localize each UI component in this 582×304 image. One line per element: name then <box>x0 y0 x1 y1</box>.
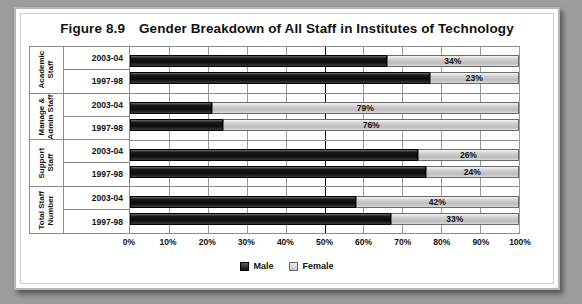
x-axis-tick-label: 50% <box>316 237 333 247</box>
bar-segment-female[interactable]: 34% <box>387 55 519 67</box>
x-axis-tick-label: 0% <box>123 237 135 247</box>
bar-value-label: 42% <box>357 197 518 206</box>
x-axis-tick-label: 10% <box>160 237 177 247</box>
x-axis-tick-label: 30% <box>238 237 255 247</box>
legend-item-male: Male <box>240 261 273 271</box>
bar-group: 26%24% <box>130 141 519 188</box>
bar-group: 34%23% <box>130 47 519 94</box>
figure-number: Figure 8.9 <box>60 21 125 36</box>
bar-segment-female[interactable]: 24% <box>426 166 519 178</box>
legend-item-female: Female <box>289 261 333 271</box>
category-row-label: 2003-04 <box>64 187 129 211</box>
category-group: Manage & Admin Staff2003-041997-98 <box>30 94 129 141</box>
bar-row[interactable]: 23% <box>130 72 519 84</box>
bar-segment-male[interactable] <box>130 166 426 178</box>
legend-label-female: Female <box>302 261 333 271</box>
bar-segment-female[interactable]: 26% <box>418 149 519 161</box>
category-row-list: 2003-041997-98 <box>64 94 129 140</box>
x-axis: 0%10%20%30%40%50%60%70%80%90%100% <box>129 234 520 252</box>
bar-value-label: 34% <box>388 57 518 66</box>
x-axis-tick-label: 70% <box>394 237 411 247</box>
bar-segment-female[interactable]: 23% <box>430 72 519 84</box>
category-group-label-text: Manage & Admin Staff <box>38 94 56 140</box>
gridline <box>519 47 520 233</box>
category-group-label: Support Staff <box>30 140 64 186</box>
bar-segment-female[interactable]: 33% <box>391 213 519 225</box>
bar-segment-male[interactable] <box>130 196 356 208</box>
bar-row[interactable]: 42% <box>130 196 519 208</box>
category-row-label: 1997-98 <box>64 117 129 139</box>
bar-row[interactable]: 79% <box>130 102 519 114</box>
bar-row[interactable]: 26% <box>130 149 519 161</box>
bar-series: 34%23%79%76%26%24%42%33% <box>130 47 519 233</box>
category-group-label-text: Support Staff <box>38 140 56 186</box>
page-title: Figure 8.9Gender Breakdown of All Staff … <box>16 21 558 36</box>
x-axis-tick-label: 90% <box>472 237 489 247</box>
category-group: Support Staff2003-041997-98 <box>30 140 129 187</box>
bar-segment-female[interactable]: 42% <box>356 196 519 208</box>
female-swatch-icon <box>289 262 298 271</box>
category-group: Total Staff Number2003-041997-98 <box>30 187 129 234</box>
chart-area: Academic Staff2003-041997-98Manage & Adm… <box>29 46 545 246</box>
bar-segment-female[interactable]: 79% <box>212 102 519 114</box>
category-row-list: 2003-041997-98 <box>64 140 129 186</box>
legend-label-male: Male <box>253 261 273 271</box>
figure-frame: Figure 8.9Gender Breakdown of All Staff … <box>14 7 560 290</box>
category-row-label: 2003-04 <box>64 47 129 70</box>
bar-segment-male[interactable] <box>130 119 223 131</box>
bar-segment-male[interactable] <box>130 55 387 67</box>
category-group-label: Manage & Admin Staff <box>30 94 64 140</box>
bar-segment-male[interactable] <box>130 149 418 161</box>
category-group: Academic Staff2003-041997-98 <box>30 47 129 94</box>
category-row-list: 2003-041997-98 <box>64 47 129 93</box>
x-axis-tick-label: 100% <box>509 237 531 247</box>
male-swatch-icon <box>240 262 249 271</box>
x-axis-tick-label: 60% <box>355 237 372 247</box>
category-axis: Academic Staff2003-041997-98Manage & Adm… <box>29 46 129 234</box>
category-row-label: 1997-98 <box>64 163 129 185</box>
x-axis-tick-label: 20% <box>199 237 216 247</box>
figure-title-text: Gender Breakdown of All Staff in Institu… <box>139 21 514 36</box>
bar-value-label: 24% <box>427 168 518 177</box>
bar-segment-male[interactable] <box>130 102 212 114</box>
category-row-label: 1997-98 <box>64 70 129 92</box>
bar-value-label: 33% <box>392 214 518 223</box>
bar-row[interactable]: 33% <box>130 213 519 225</box>
bar-value-label: 23% <box>431 74 518 83</box>
plot-area: 34%23%79%76%26%24%42%33% <box>129 46 520 234</box>
bar-group: 79%76% <box>130 94 519 141</box>
bar-segment-male[interactable] <box>130 72 430 84</box>
chart-legend: Male Female <box>16 261 558 271</box>
bar-value-label: 26% <box>419 151 518 160</box>
category-group-label-text: Total Staff Number <box>38 187 56 234</box>
category-group-label: Academic Staff <box>30 47 64 93</box>
bar-row[interactable]: 76% <box>130 119 519 131</box>
x-axis-tick-label: 80% <box>433 237 450 247</box>
category-group-label-text: Academic Staff <box>38 47 56 93</box>
category-row-list: 2003-041997-98 <box>64 187 129 234</box>
category-row-label: 2003-04 <box>64 140 129 163</box>
x-axis-tick-label: 40% <box>277 237 294 247</box>
category-row-label: 2003-04 <box>64 94 129 117</box>
bar-group: 42%33% <box>130 187 519 233</box>
bar-value-label: 79% <box>213 104 518 113</box>
bar-value-label: 76% <box>224 121 518 130</box>
bar-segment-male[interactable] <box>130 213 391 225</box>
category-group-label: Total Staff Number <box>30 187 64 234</box>
category-row-label: 1997-98 <box>64 210 129 233</box>
bar-row[interactable]: 24% <box>130 166 519 178</box>
bar-row[interactable]: 34% <box>130 55 519 67</box>
bar-segment-female[interactable]: 76% <box>223 119 519 131</box>
